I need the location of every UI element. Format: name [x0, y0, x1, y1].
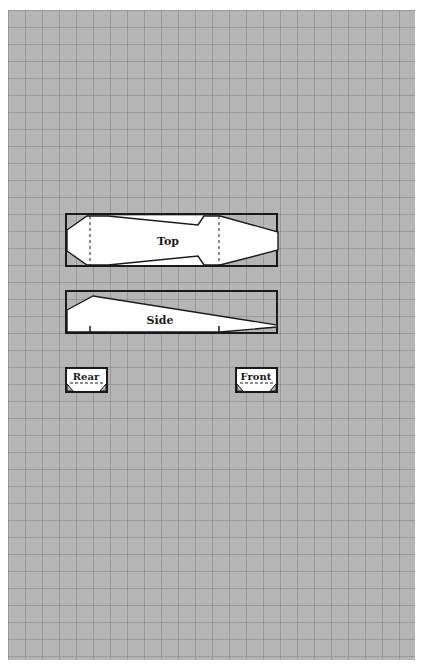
front-view-label: Front	[241, 371, 272, 382]
top-view-label: Top	[157, 235, 179, 248]
front-view: Front	[236, 368, 277, 392]
grid-paper-drawing: Top Side Rear Front	[8, 10, 415, 660]
grid-background	[8, 10, 415, 660]
grid-paper-sheet: Top Side Rear Front	[8, 10, 415, 660]
rear-view: Rear	[66, 368, 107, 392]
side-view-label: Side	[147, 314, 174, 327]
rear-view-label: Rear	[73, 371, 100, 382]
